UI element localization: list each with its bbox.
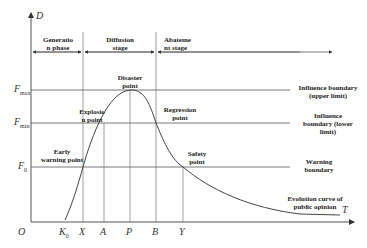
label-lower-boundary: Influenceboundary (lowerlimit) bbox=[292, 112, 364, 136]
label-disaster-point: Disasterpoint bbox=[110, 74, 150, 90]
tick-y: Y bbox=[179, 226, 185, 237]
label-upper-boundary: Influence boundary(upper limit) bbox=[290, 84, 366, 100]
tick-x: X bbox=[79, 226, 85, 237]
tick-k0: K0 bbox=[59, 226, 69, 239]
level-f0: F0 bbox=[18, 160, 27, 173]
tick-b: B bbox=[152, 226, 158, 237]
label-regression-point: Regressionpoint bbox=[158, 106, 202, 122]
level-fmax: Fmax bbox=[14, 83, 30, 96]
tick-a: A bbox=[100, 226, 106, 237]
tick-p: P bbox=[126, 226, 132, 237]
y-axis-label: D bbox=[36, 10, 43, 21]
stage-diffusion: Diffusionstage bbox=[100, 36, 140, 52]
label-warning-boundary: Warningboundary bbox=[292, 158, 346, 174]
stage-abatement: Abatement stage bbox=[164, 36, 204, 52]
origin-label: O bbox=[18, 226, 25, 237]
level-fmin: Fmin bbox=[14, 116, 29, 129]
label-evolution-curve: Evolution curve ofpublic opinion bbox=[280, 195, 350, 211]
label-explosion-point: Explosion point bbox=[72, 108, 112, 124]
label-safety-point: Safetypoint bbox=[182, 150, 212, 166]
label-early-warning-point: Earlywarning point bbox=[40, 148, 84, 164]
stage-generation: Generation phase bbox=[36, 36, 80, 52]
